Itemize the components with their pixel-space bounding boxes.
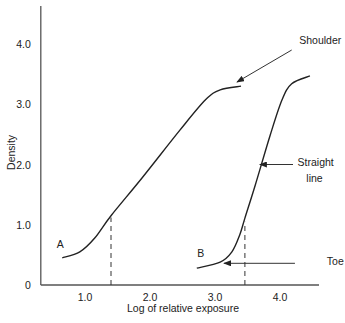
straight-label-line2: line: [306, 172, 323, 184]
x-tick-label: 1.0: [78, 291, 93, 303]
reference-lines: [111, 218, 245, 285]
y-tick-label: 2.0: [16, 159, 31, 171]
shoulder-arrow: [237, 50, 292, 82]
series-label-a: A: [57, 238, 64, 250]
y-tick-label: 1.0: [16, 219, 31, 231]
y-tick-labels: 01.02.03.04.0: [16, 38, 31, 291]
y-tick-label: 3.0: [16, 98, 31, 110]
x-axis-label: Log of relative exposure: [127, 302, 239, 314]
y-tick-label: 4.0: [16, 38, 31, 50]
curve-a: [62, 86, 241, 258]
x-tick-label: 4.0: [273, 291, 288, 303]
series-group: [62, 76, 310, 268]
straight-label: Straight: [298, 156, 334, 168]
shoulder-label: Shoulder: [299, 34, 342, 46]
toe-label: Toe: [327, 255, 344, 267]
characteristic-curve-chart: 1.02.03.04.0 01.02.03.04.0 Log of relati…: [0, 0, 345, 323]
y-tick-label: 0: [25, 279, 31, 291]
curve-b: [197, 76, 310, 268]
y-axis-label: Density: [5, 134, 17, 170]
series-label-b: B: [197, 247, 204, 259]
